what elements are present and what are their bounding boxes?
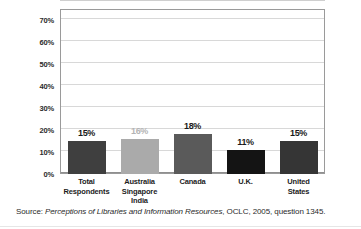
bar-group: 11%	[219, 9, 272, 174]
bottom-rule	[0, 226, 361, 227]
bar-value-label: 11%	[237, 137, 254, 147]
x-tick-label-line: Respondents	[60, 187, 113, 197]
source-caption: Source: Perceptions of Libraries and Inf…	[16, 207, 356, 216]
chart-figure: 0%10%20%30%40%50%60%70% 15%16%18%11%15% …	[0, 0, 361, 229]
y-tick-label-70pct: 70%	[0, 16, 54, 25]
bar[interactable]	[280, 141, 318, 174]
bar-group: 15%	[60, 9, 113, 174]
bar[interactable]	[174, 134, 212, 174]
x-tick-label-line: India	[113, 196, 166, 206]
bar-group: 15%	[272, 9, 325, 174]
x-tick-label-line: Singapore	[113, 187, 166, 197]
x-tick-label-line: Australia	[113, 177, 166, 187]
x-tick-label: TotalRespondents	[60, 177, 113, 196]
y-axis: 0%10%20%30%40%50%60%70%	[0, 0, 56, 229]
bar-value-label: 15%	[290, 128, 307, 138]
caption-suffix: , OCLC, 2005, question 1345.	[222, 207, 325, 216]
x-tick-label-line: Canada	[166, 177, 219, 187]
x-tick-label: AustraliaSingaporeIndia	[113, 177, 166, 206]
bar-value-label: 18%	[184, 121, 201, 131]
x-tick-label-line: United	[272, 177, 325, 187]
bar[interactable]	[227, 150, 265, 174]
y-tick-label-0pct: 0%	[0, 170, 54, 179]
y-tick-label-50pct: 50%	[0, 60, 54, 69]
x-tick-label-line: States	[272, 187, 325, 197]
y-tick-label-20pct: 20%	[0, 126, 54, 135]
x-tick-label-line: Total	[60, 177, 113, 187]
bar[interactable]	[68, 141, 106, 174]
bar-value-label: 15%	[78, 128, 95, 138]
bars-layer: 15%16%18%11%15%	[60, 9, 325, 174]
x-tick-label: UnitedStates	[272, 177, 325, 196]
bar-group: 16%	[113, 9, 166, 174]
top-bleed-rule	[60, 0, 325, 1]
x-tick-label: U.K.	[219, 177, 272, 187]
y-tick-label-40pct: 40%	[0, 82, 54, 91]
caption-prefix: Source:	[16, 207, 45, 216]
bar[interactable]	[121, 139, 159, 174]
x-tick-label: Canada	[166, 177, 219, 187]
x-tick-label-line: U.K.	[219, 177, 272, 187]
y-tick-label-10pct: 10%	[0, 148, 54, 157]
caption-publication-title: Perceptions of Libraries and Information…	[45, 207, 222, 216]
bar-value-label: 16%	[131, 126, 148, 136]
y-tick-label-30pct: 30%	[0, 104, 54, 113]
bar-group: 18%	[166, 9, 219, 174]
y-tick-label-60pct: 60%	[0, 38, 54, 47]
